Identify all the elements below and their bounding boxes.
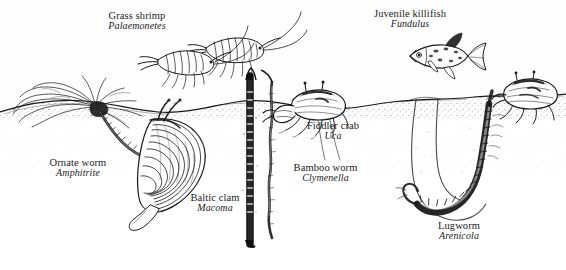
mudflat-figure: Grass shrimp Palaemonetes Juvenile killi…: [0, 0, 566, 270]
illustration-artwork: [0, 0, 566, 270]
grass-shrimp-drawing: [138, 12, 307, 89]
killifish-drawing: [410, 33, 486, 79]
